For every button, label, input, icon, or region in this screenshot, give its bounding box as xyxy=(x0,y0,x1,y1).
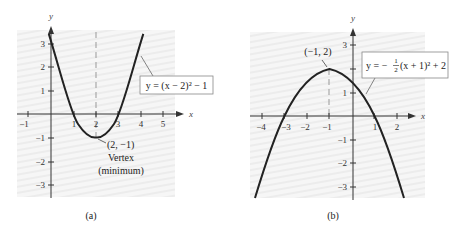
y-tick-label: −3 xyxy=(337,182,347,192)
x-tick-label: −2 xyxy=(300,122,310,132)
figure: −1 1 2 3 4 5 3 2 1 −1 −2 −3 y x y = (x −… xyxy=(0,0,464,235)
vertex-label-a: (2, −1) xyxy=(107,139,134,151)
x-axis-arrow-icon xyxy=(176,111,184,117)
x-axis-label: x xyxy=(188,109,193,119)
x-tick-label: −3 xyxy=(281,122,291,132)
y-axis-label: y xyxy=(350,13,355,23)
equation-frac-num-b: 1 xyxy=(394,57,398,65)
x-tick-label: −4 xyxy=(256,122,266,132)
chart-panel-a: −1 1 2 3 4 5 3 2 1 −1 −2 −3 y x y = (x −… xyxy=(17,11,213,222)
x-tick-label: −1 xyxy=(19,119,29,129)
equation-suffix-b: (x + 1)² + 2 xyxy=(400,60,446,72)
y-tick-label: −1 xyxy=(337,135,347,145)
caption-b: (b) xyxy=(327,210,339,222)
y-tick-label: −2 xyxy=(35,157,45,167)
x-tick-label: 4 xyxy=(139,119,144,129)
equation-label-a: y = (x − 2)² − 1 xyxy=(146,80,208,92)
y-tick-label: 1 xyxy=(41,86,46,96)
x-tick-label: 2 xyxy=(94,119,99,129)
x-tick-label: −1 xyxy=(322,122,332,132)
caption-a: (a) xyxy=(85,210,96,222)
y-tick-label: 2 xyxy=(41,62,46,72)
vertex-label-b: (−1, 2) xyxy=(304,46,331,58)
vertex-note-a: Vertex xyxy=(108,152,134,163)
y-tick-label: −3 xyxy=(35,180,45,190)
x-axis-label: x xyxy=(420,111,425,121)
equation-frac-den-b: 2 xyxy=(394,66,398,74)
chart-panel-b: −4 −3 −2 −1 1 2 3 1 −1 −2 −3 y x (−1, 2)… xyxy=(250,13,448,222)
equation-prefix-b: y = − xyxy=(366,60,388,71)
vertex-note2-a: (minimum) xyxy=(98,165,144,177)
y-tick-label: 1 xyxy=(343,88,348,98)
y-tick-label: −1 xyxy=(35,133,45,143)
x-tick-label: 1 xyxy=(373,122,378,132)
y-axis-label: y xyxy=(48,11,53,21)
y-tick-label: −2 xyxy=(337,158,347,168)
y-tick-label: 3 xyxy=(41,39,46,49)
x-tick-label: 5 xyxy=(161,119,166,129)
x-tick-label: 2 xyxy=(395,122,400,132)
y-tick-label: 3 xyxy=(343,40,348,50)
